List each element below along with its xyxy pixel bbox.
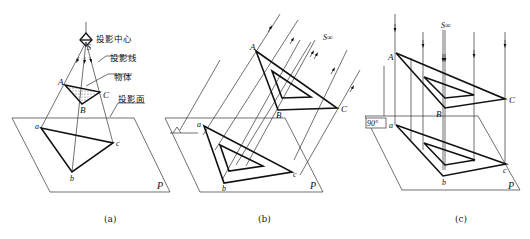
panel-c: S∞ 90° A B C a b c P (c): [365, 14, 520, 224]
label-90-deg: 90°: [367, 119, 379, 128]
object-triangle-a: [65, 85, 100, 104]
projected-triangle-b: [204, 126, 292, 183]
label-b-c: b: [442, 178, 446, 187]
label-P-a: P: [156, 180, 163, 191]
label-projection-lines: 投影线: [110, 53, 137, 63]
projected-triangle-c: [396, 125, 506, 176]
label-C-b: C: [341, 104, 348, 114]
label-b-b: b: [222, 184, 226, 193]
label-P-b: P: [309, 180, 316, 191]
label-c-c: c: [503, 166, 507, 175]
label-B-c: B: [436, 109, 442, 119]
object-triangle-c: [396, 53, 505, 108]
object-triangle-b: [256, 51, 337, 110]
projection-figure: 投影中心 S 投影线 物体 投影面 A B C a b c P (a): [0, 0, 530, 239]
caption-b: (b): [258, 214, 271, 224]
label-S-inf-c: S∞: [441, 21, 451, 30]
label-projection-plane: 投影面: [118, 94, 145, 104]
label-C-a: C: [103, 90, 110, 100]
label-projection-center: 投影中心: [96, 34, 132, 44]
label-b-a: b: [70, 174, 74, 183]
label-a-c: a: [389, 121, 393, 130]
label-A-b: A: [249, 42, 256, 52]
label-C-c: C: [509, 95, 516, 105]
label-S: S: [87, 43, 91, 52]
label-object: 物体: [114, 72, 132, 82]
label-a-b: a: [197, 120, 201, 129]
caption-c: (c): [455, 214, 467, 224]
projected-triangle-a: [41, 128, 113, 172]
label-A-a: A: [57, 77, 64, 87]
label-A-c: A: [387, 52, 394, 62]
label-c-a: c: [116, 139, 120, 148]
label-B-b: B: [276, 110, 282, 120]
label-a-a: a: [35, 122, 39, 131]
label-S-inf-b: S∞: [323, 33, 333, 42]
panel-a: 投影中心 S 投影线 物体 投影面 A B C a b c P (a): [12, 22, 170, 224]
panel-b: S∞ A B C a b c P (b): [165, 14, 360, 224]
projection-plane-b: [165, 118, 323, 192]
caption-a: (a): [104, 214, 116, 224]
label-P-c: P: [507, 180, 514, 191]
label-c-b: c: [293, 170, 297, 179]
label-B-a: B: [80, 105, 86, 115]
